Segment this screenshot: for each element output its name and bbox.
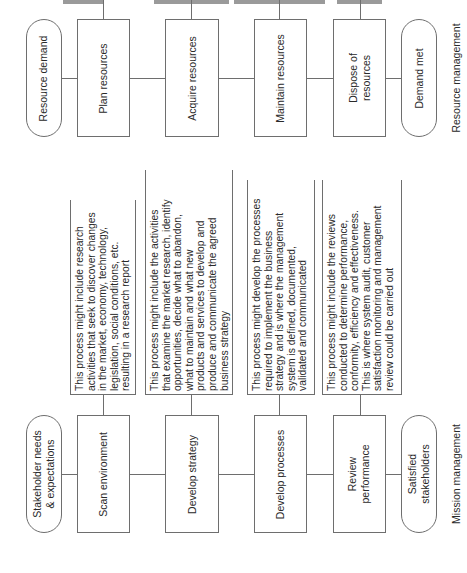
note-develop-processes: This process might develop the processes… [247, 180, 315, 395]
note-scan-environment: This process might include research acti… [70, 200, 136, 395]
develop-processes-step: Develop processes [254, 415, 307, 533]
resource-management-caption: Resource management [448, 19, 464, 137]
mission-management-caption: Mission management [448, 415, 464, 533]
review-performance-step: Review performance [333, 415, 386, 533]
resource-demand-terminator: Resource demand [26, 19, 62, 137]
note-review-performance: This process might include the reviews c… [322, 180, 402, 395]
develop-strategy-step: Develop strategy [165, 415, 219, 533]
demand-met-label: Demand met [413, 48, 426, 108]
acquire-resources-step: Acquire resources [165, 19, 219, 137]
top-bar-1 [63, 0, 103, 4]
maintain-resources-step: Maintain resources [254, 19, 307, 137]
scan-environment-step: Scan environment [77, 415, 130, 533]
plan-resources-step: Plan resources [77, 19, 130, 137]
stakeholder-needs-terminator: Stakeholder needs & expectations [26, 415, 62, 533]
dispose-resources-step: Dispose of resources [333, 19, 386, 137]
note-develop-strategy: This process might include the activitie… [145, 170, 233, 395]
satisfied-stakeholders-terminator: Satisfied stakeholders [401, 415, 437, 533]
demand-met-terminator: Demand met [401, 19, 437, 137]
resource-demand-label: Resource demand [38, 35, 51, 121]
